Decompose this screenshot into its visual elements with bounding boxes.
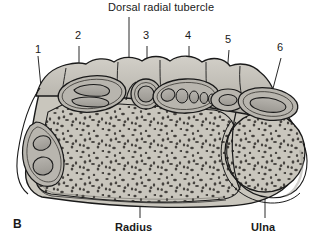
- wrist-cross-section-figure: [0, 0, 320, 252]
- tendon-4d: [200, 93, 208, 104]
- tendon-4c: [190, 91, 199, 103]
- tendon-5-edm: [219, 95, 237, 106]
- label-compartment-4: 4: [185, 30, 191, 41]
- tendon-2a: [74, 85, 109, 97]
- tendon-3-epl: [138, 86, 154, 102]
- label-compartment-5: 5: [225, 34, 231, 45]
- label-compartment-3: 3: [143, 30, 149, 41]
- label-compartment-6: 6: [277, 42, 283, 53]
- label-compartment-2: 2: [75, 30, 81, 41]
- label-ulna: Ulna: [251, 222, 275, 233]
- label-compartment-1: 1: [35, 44, 41, 55]
- radius-cancellous-bone: [36, 104, 240, 202]
- label-radius: Radius: [115, 222, 152, 233]
- title-dorsal-radial-tubercle: Dorsal radial tubercle: [108, 2, 214, 13]
- tendon-4b: [176, 89, 188, 103]
- panel-label-b: B: [13, 218, 22, 230]
